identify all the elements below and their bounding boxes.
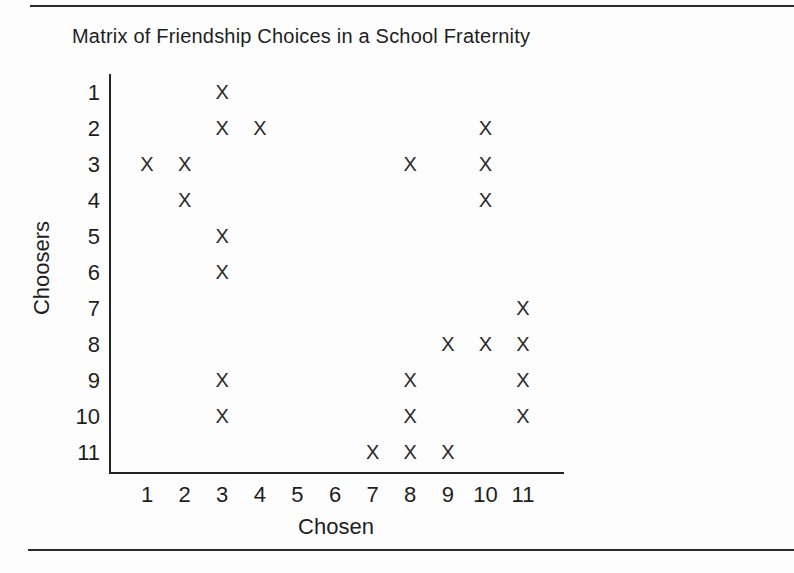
y-tick-label-3: 3 (40, 152, 100, 178)
choice-mark-chooser10-chosen3: X (216, 406, 229, 426)
y-tick-label-1: 1 (40, 80, 100, 106)
choice-mark-chooser2-chosen10: X (479, 118, 492, 138)
x-tick-label-1: 1 (141, 482, 153, 508)
x-axis-line (109, 472, 564, 474)
choice-mark-chooser4-chosen10: X (479, 190, 492, 210)
choice-mark-chooser8-chosen9: X (441, 334, 454, 354)
x-tick-label-6: 6 (329, 482, 341, 508)
choice-mark-chooser6-chosen3: X (216, 262, 229, 282)
x-axis-title: Chosen (298, 514, 374, 540)
y-tick-label-11: 11 (40, 440, 100, 466)
top-rule (30, 5, 794, 7)
choice-mark-chooser9-chosen11: X (516, 370, 529, 390)
choice-mark-chooser2-chosen4: X (253, 118, 266, 138)
choice-mark-chooser5-chosen3: X (216, 226, 229, 246)
x-tick-label-5: 5 (291, 482, 303, 508)
choice-mark-chooser3-chosen1: X (140, 154, 153, 174)
choice-mark-chooser3-chosen2: X (178, 154, 191, 174)
x-tick-label-7: 7 (366, 482, 378, 508)
y-tick-label-7: 7 (40, 296, 100, 322)
y-tick-label-4: 4 (40, 188, 100, 214)
x-tick-label-2: 2 (178, 482, 190, 508)
choice-mark-chooser11-chosen8: X (404, 442, 417, 462)
y-tick-label-6: 6 (40, 260, 100, 286)
x-tick-label-4: 4 (254, 482, 266, 508)
y-tick-label-9: 9 (40, 368, 100, 394)
choice-mark-chooser7-chosen11: X (516, 298, 529, 318)
choice-mark-chooser3-chosen10: X (479, 154, 492, 174)
x-tick-label-3: 3 (216, 482, 228, 508)
choice-mark-chooser8-chosen10: X (479, 334, 492, 354)
choice-mark-chooser11-chosen9: X (441, 442, 454, 462)
x-tick-label-10: 10 (473, 482, 497, 508)
choice-mark-chooser8-chosen11: X (516, 334, 529, 354)
choice-mark-chooser11-chosen7: X (366, 442, 379, 462)
choice-mark-chooser3-chosen8: X (404, 154, 417, 174)
chart-title: Matrix of Friendship Choices in a School… (72, 25, 530, 48)
y-tick-label-2: 2 (40, 116, 100, 142)
choice-mark-chooser9-chosen8: X (404, 370, 417, 390)
y-tick-label-10: 10 (40, 404, 100, 430)
x-tick-label-8: 8 (404, 482, 416, 508)
x-tick-label-11: 11 (512, 482, 535, 508)
y-tick-label-8: 8 (40, 332, 100, 358)
x-tick-label-9: 9 (442, 482, 454, 508)
choice-mark-chooser10-chosen8: X (404, 406, 417, 426)
bottom-rule (28, 549, 794, 551)
y-tick-label-5: 5 (40, 224, 100, 250)
choice-mark-chooser10-chosen11: X (516, 406, 529, 426)
choice-mark-chooser1-chosen3: X (216, 82, 229, 102)
choice-mark-chooser9-chosen3: X (216, 370, 229, 390)
choice-mark-chooser2-chosen3: X (216, 118, 229, 138)
choice-mark-chooser4-chosen2: X (178, 190, 191, 210)
y-axis-line (109, 74, 111, 474)
